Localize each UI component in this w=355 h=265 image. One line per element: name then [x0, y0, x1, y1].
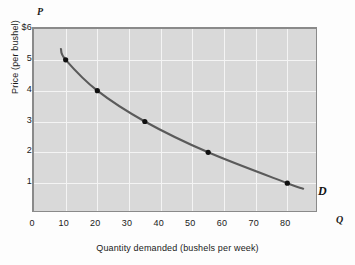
- x-tick-label: 70: [248, 218, 258, 228]
- y-tick-label: 2: [27, 145, 32, 155]
- x-tick-label: 20: [90, 218, 100, 228]
- x-tick-label: 50: [185, 218, 195, 228]
- x-tick-label: 40: [153, 218, 163, 228]
- y-tick-label: $6: [22, 22, 32, 32]
- x-tick-label: 10: [58, 218, 68, 228]
- y-tick-label: 1: [27, 176, 32, 186]
- data-point: [142, 119, 147, 124]
- y-tick-label: 5: [27, 53, 32, 63]
- y-axis-symbol: P: [37, 6, 43, 17]
- data-points: [63, 57, 290, 186]
- demand-curve-figure: P Q D $654321 01020304050607080 Quantity…: [0, 0, 355, 265]
- data-point: [95, 88, 100, 93]
- plot-area: [32, 27, 317, 212]
- x-axis-title: Quantity demanded (bushels per week): [0, 243, 355, 253]
- curve-label-d: D: [318, 184, 327, 199]
- x-tick-label: 30: [122, 218, 132, 228]
- y-tick-label: 4: [27, 84, 32, 94]
- x-tick-label: 80: [280, 218, 290, 228]
- x-tick-label: 60: [217, 218, 227, 228]
- data-point: [63, 57, 68, 62]
- data-point: [206, 150, 211, 155]
- y-tick-label: 3: [27, 115, 32, 125]
- data-point: [285, 181, 290, 186]
- y-axis-title: Price (per bushel): [10, 0, 20, 132]
- demand-curve-svg: [34, 29, 317, 212]
- x-tick-label: 0: [29, 218, 34, 228]
- y-axis-title-wrapper: Price (per bushel): [10, 0, 20, 132]
- x-axis-symbol: Q: [336, 214, 343, 225]
- demand-curve-path: [61, 49, 303, 189]
